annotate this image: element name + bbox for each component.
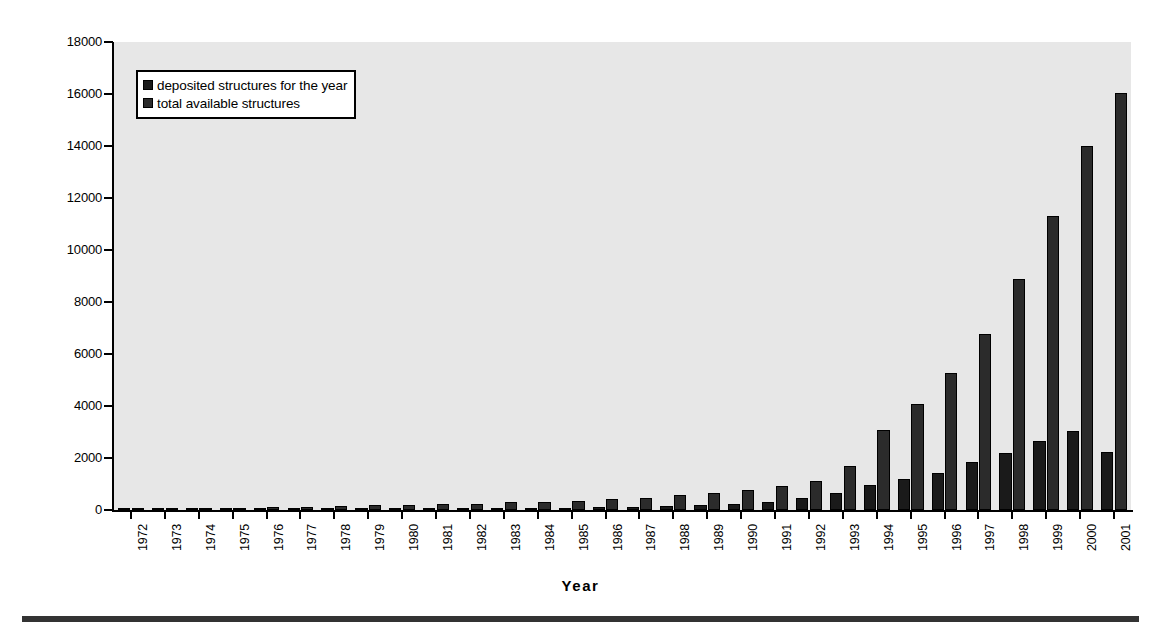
y-tick-label-text: 14000 xyxy=(36,139,102,152)
bar-total xyxy=(911,404,923,510)
bar-total xyxy=(538,502,550,510)
y-tick-label: 10000 xyxy=(22,243,102,257)
x-tick-label: 1984 xyxy=(543,524,557,551)
y-tick xyxy=(104,249,113,251)
x-tick xyxy=(944,510,946,519)
x-tick xyxy=(740,510,742,519)
x-tick xyxy=(299,510,301,519)
bar-total xyxy=(810,481,822,510)
x-tick xyxy=(1113,510,1115,519)
bar-group xyxy=(758,42,792,510)
x-tick-label: 1983 xyxy=(509,524,523,551)
bar-total xyxy=(1081,146,1093,510)
bar-group xyxy=(792,42,826,510)
bar-group xyxy=(1097,42,1131,510)
y-tick-label: 6000 xyxy=(22,347,102,361)
x-tick-label: 1989 xyxy=(712,524,726,551)
x-tick-label: 1996 xyxy=(950,524,964,551)
bar-group xyxy=(453,42,487,510)
y-tick-label: 18000 xyxy=(22,35,102,49)
bar-group xyxy=(1063,42,1097,510)
bar-group xyxy=(860,42,894,510)
x-tick-label: 1993 xyxy=(848,524,862,551)
y-tick-label-text: 4000 xyxy=(36,399,102,412)
y-tick-label: 8000 xyxy=(22,295,102,309)
x-tick-label: 1990 xyxy=(746,524,760,551)
x-tick xyxy=(977,510,979,519)
bar-group xyxy=(589,42,623,510)
bar-total xyxy=(572,501,584,510)
y-tick-label: 16000 xyxy=(22,87,102,101)
bar-total xyxy=(742,490,754,510)
x-tick xyxy=(774,510,776,519)
x-tick xyxy=(232,510,234,519)
y-tick xyxy=(104,353,113,355)
bar-group xyxy=(555,42,589,510)
x-tick-label: 1978 xyxy=(339,524,353,551)
y-tick-label-text: 16000 xyxy=(36,87,102,100)
x-tick xyxy=(1079,510,1081,519)
bar-total xyxy=(1047,216,1059,510)
bar-group xyxy=(351,42,385,510)
bar-total xyxy=(505,502,517,510)
x-tick-label: 1988 xyxy=(678,524,692,551)
bar-deposited xyxy=(966,462,978,510)
y-tick xyxy=(104,457,113,459)
x-tick-label: 1999 xyxy=(1051,524,1065,551)
bar-total xyxy=(640,498,652,510)
x-tick xyxy=(706,510,708,519)
bar-group xyxy=(826,42,860,510)
x-tick xyxy=(367,510,369,519)
bar-deposited xyxy=(830,493,842,510)
y-tick-label-text: 8000 xyxy=(36,295,102,308)
legend-swatch-deposited xyxy=(143,80,153,90)
bar-group xyxy=(995,42,1029,510)
x-tick-label: 1987 xyxy=(644,524,658,551)
x-tick-label: 1991 xyxy=(780,524,794,551)
x-tick xyxy=(469,510,471,519)
chart-legend: deposited structures for the year total … xyxy=(136,70,356,119)
bar-group xyxy=(724,42,758,510)
bar-total xyxy=(877,430,889,510)
bar-deposited xyxy=(1067,431,1079,510)
x-tick xyxy=(571,510,573,519)
x-tick xyxy=(876,510,878,519)
x-tick-label: 1981 xyxy=(441,524,455,551)
x-tick xyxy=(164,510,166,519)
legend-item-total: total available structures xyxy=(143,94,347,112)
y-tick-label-text: 10000 xyxy=(36,243,102,256)
x-tick xyxy=(266,510,268,519)
x-tick-label: 1982 xyxy=(475,524,489,551)
x-tick-label: 2001 xyxy=(1119,524,1133,551)
bar-chart: 0200040006000800010000120001400016000180… xyxy=(0,0,1161,640)
bar-total xyxy=(844,466,856,510)
y-tick-label: 14000 xyxy=(22,139,102,153)
bar-deposited xyxy=(1033,441,1045,510)
y-tick-label: 2000 xyxy=(22,451,102,465)
y-tick xyxy=(104,301,113,303)
y-tick-label-text: 6000 xyxy=(36,347,102,360)
bar-total xyxy=(945,373,957,510)
x-tick xyxy=(672,510,674,519)
bar-deposited xyxy=(796,498,808,510)
bar-total xyxy=(979,334,991,510)
y-tick xyxy=(104,405,113,407)
y-tick-label: 0 xyxy=(22,503,102,517)
x-tick-label: 1985 xyxy=(577,524,591,551)
bar-group xyxy=(419,42,453,510)
y-tick xyxy=(104,41,113,43)
y-tick xyxy=(104,197,113,199)
x-tick-label: 1995 xyxy=(916,524,930,551)
x-tick-label: 1986 xyxy=(611,524,625,551)
bar-group xyxy=(690,42,724,510)
y-tick-label-text: 18000 xyxy=(36,35,102,48)
bar-deposited xyxy=(999,453,1011,510)
bar-total xyxy=(776,486,788,510)
x-axis-title: Year xyxy=(0,577,1161,594)
x-tick-label: 1997 xyxy=(983,524,997,551)
x-tick-label: 1979 xyxy=(373,524,387,551)
y-tick-label: 4000 xyxy=(22,399,102,413)
x-tick-label: 1975 xyxy=(238,524,252,551)
x-tick xyxy=(808,510,810,519)
y-tick-label: 12000 xyxy=(22,191,102,205)
